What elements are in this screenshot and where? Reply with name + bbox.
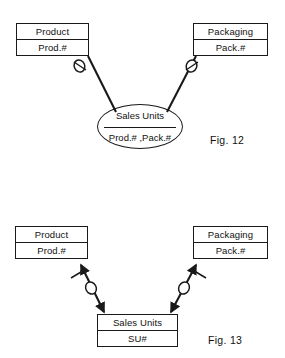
entity-name: Sales Units — [98, 315, 177, 331]
connector-product-to-sales-units — [72, 56, 116, 112]
entity-box-sales-units-fig13[interactable]: Sales Units SU# — [97, 314, 178, 347]
entity-attribute: Prod.# — [16, 243, 87, 258]
entity-box-product-fig13[interactable]: Product Prod.# — [15, 226, 88, 259]
entity-attribute: Prod.# — [17, 40, 88, 55]
entity-attribute: Pack.# — [194, 243, 267, 258]
connector-product-sales-units-arrow — [71, 265, 104, 312]
figure-caption-fig12: Fig. 12 — [210, 134, 244, 146]
entity-box-packaging-fig12[interactable]: Packaging Pack.# — [193, 23, 268, 56]
entity-name: Packaging — [194, 24, 267, 40]
entity-attribute: SU# — [98, 331, 177, 346]
entity-attribute: Pack.# — [194, 40, 267, 55]
mandatory-bar-icon — [71, 269, 86, 278]
connector-packaging-to-sales-units — [167, 56, 199, 112]
optionality-circle-icon — [84, 280, 99, 296]
entity-name: Product — [16, 227, 87, 243]
figure-caption-fig13: Fig. 13 — [208, 334, 242, 346]
connector-packaging-sales-units-arrow — [171, 265, 206, 312]
ellipse-divider — [104, 127, 176, 128]
entity-name: Product — [17, 24, 88, 40]
relationship-ellipse-sales-units-fig12[interactable]: Sales Units Prod.# ,Pack.# — [97, 104, 183, 149]
entity-box-product-fig12[interactable]: Product Prod.# — [16, 23, 89, 56]
entity-box-packaging-fig13[interactable]: Packaging Pack.# — [193, 226, 268, 259]
connector-line — [88, 56, 116, 112]
entity-name: Packaging — [194, 227, 267, 243]
optionality-circle-icon — [177, 280, 192, 296]
mandatory-bar-icon — [191, 269, 206, 278]
